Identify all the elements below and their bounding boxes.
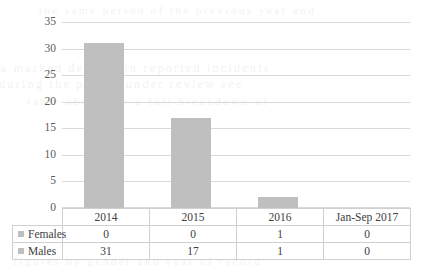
bar-chart: 35 30 25 20 15 10 5 0 2014 2015 (0, 0, 425, 275)
y-axis: 35 30 25 20 15 10 5 0 (20, 22, 56, 208)
legend-swatch-icon (18, 231, 24, 237)
y-tick-label: 25 (22, 69, 56, 81)
cell-males-2014: 31 (63, 243, 150, 260)
cell-females-jan-sep-2017: 0 (324, 226, 411, 243)
cell-males-jan-sep-2017: 0 (324, 243, 411, 260)
bar-2014 (84, 43, 124, 208)
table-header-2016: 2016 (237, 209, 324, 226)
table-corner-cell (13, 209, 63, 226)
cell-females-2015: 0 (150, 226, 237, 243)
legend-label-males: Males (28, 245, 56, 257)
bar-2016 (258, 197, 298, 208)
y-tick-label: 20 (22, 96, 56, 108)
y-tick-label: 5 (22, 175, 56, 187)
gridline (62, 22, 410, 23)
cell-males-2015: 17 (150, 243, 237, 260)
legend-swatch-icon (18, 248, 24, 254)
bar-2015 (171, 118, 211, 208)
plot-area (62, 22, 410, 208)
table-header-2014: 2014 (63, 209, 150, 226)
cell-females-2016: 1 (237, 226, 324, 243)
y-tick-label: 35 (22, 16, 56, 28)
y-tick-label: 10 (22, 149, 56, 161)
legend-label-females: Females (28, 228, 66, 240)
data-table: 2014 2015 2016 Jan-Sep 2017 Females 0 0 … (12, 208, 411, 260)
table-row-males: Males 31 17 1 0 (13, 243, 411, 260)
table-row-females: Females 0 0 1 0 (13, 226, 411, 243)
cell-males-2016: 1 (237, 243, 324, 260)
table-header-jan-sep-2017: Jan-Sep 2017 (324, 209, 411, 226)
legend-item-females[interactable]: Females (13, 226, 63, 243)
y-tick-label: 15 (22, 122, 56, 134)
y-tick-label: 30 (22, 43, 56, 55)
cell-females-2014: 0 (63, 226, 150, 243)
table-header-2015: 2015 (150, 209, 237, 226)
table-header-row: 2014 2015 2016 Jan-Sep 2017 (13, 209, 411, 226)
legend-item-males[interactable]: Males (13, 243, 63, 260)
